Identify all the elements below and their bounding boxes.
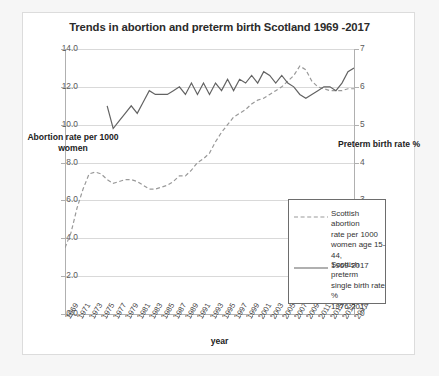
series-line-preterm-rate bbox=[107, 68, 354, 129]
chart-title: Trends in abortion and preterm birth Sco… bbox=[23, 21, 416, 33]
y-axis-right-tick-mark bbox=[355, 125, 359, 126]
y-axis-right-tick-mark bbox=[355, 163, 359, 164]
chart-card: Trends in abortion and preterm birth Sco… bbox=[22, 12, 415, 355]
y-axis-right-tick-mark bbox=[355, 49, 359, 50]
legend-swatch-abortion bbox=[294, 213, 328, 221]
legend-label-preterm: Scottish preterm single birth rate % 197… bbox=[331, 260, 387, 312]
chart-legend: Scottish abortion rate per 1000 women ag… bbox=[288, 199, 386, 304]
y-axis-right-tick-mark bbox=[355, 87, 359, 88]
legend-swatch-preterm bbox=[294, 264, 328, 272]
y-axis-right-tick-label: 4 bbox=[360, 157, 365, 167]
x-axis-label: year bbox=[23, 336, 416, 346]
y-axis-right-tick-label: 7 bbox=[360, 43, 365, 53]
chart-image-frame: Trends in abortion and preterm birth Sco… bbox=[0, 0, 439, 376]
y-axis-right-tick-label: 6 bbox=[360, 81, 365, 91]
y-axis-right-tick-label: 5 bbox=[360, 119, 365, 129]
